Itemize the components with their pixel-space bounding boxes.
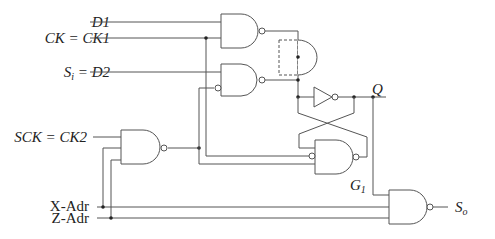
- label-so: So: [455, 199, 468, 217]
- nand-gate-output: [389, 190, 448, 224]
- label-z-adr: Z-Adr: [52, 210, 90, 226]
- circuit-diagram: D1 CK = CK1 Si = D2 SCK = CK2 X-Adr Z-Ad…: [0, 0, 495, 239]
- nand-gate-d2: [215, 64, 300, 96]
- sck-gate-output: [168, 88, 315, 164]
- label-si: Si = D2: [64, 64, 111, 82]
- label-q: Q: [372, 81, 383, 97]
- nand-gate-g1: [309, 140, 359, 174]
- label-g1: G1: [350, 177, 366, 195]
- label-sck: SCK = CK2: [14, 129, 87, 145]
- q-to-output: [373, 97, 389, 195]
- nand-gate-sck: [121, 130, 167, 164]
- adr-branches: [101, 148, 121, 220]
- input-wires: [90, 22, 389, 218]
